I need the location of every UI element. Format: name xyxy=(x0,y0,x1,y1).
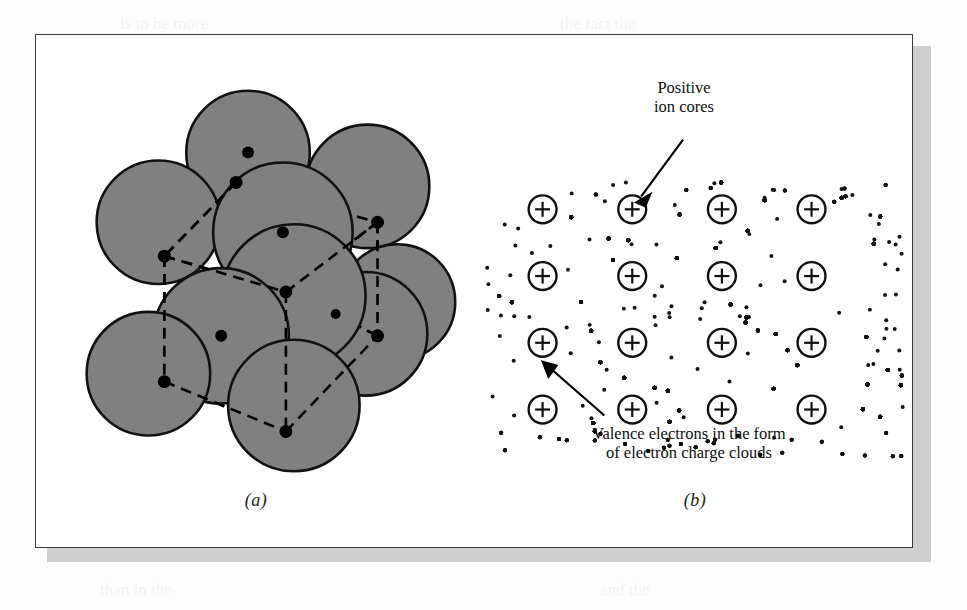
electron-dot xyxy=(579,300,583,304)
ghost-text-line: is to be more xyxy=(120,14,208,34)
electron-dot xyxy=(570,191,574,195)
electron-dot xyxy=(677,408,681,412)
electron-dot xyxy=(709,186,713,190)
scanned-page: is to be more the fact the in the same b… xyxy=(0,0,967,610)
electron-dot xyxy=(653,386,657,390)
electron-dot xyxy=(684,188,688,192)
electron-dot xyxy=(840,196,844,200)
electron-dot xyxy=(758,283,762,287)
electron-dot xyxy=(654,323,658,327)
electron-dot xyxy=(498,334,502,338)
electron-dot xyxy=(901,405,905,409)
electron-dot xyxy=(899,454,903,458)
electron-dot xyxy=(698,317,702,321)
electron-dot xyxy=(898,368,902,372)
electron-dot xyxy=(569,351,573,355)
positive-ion-core xyxy=(708,195,736,223)
electron-dot xyxy=(877,222,881,226)
electron-dot xyxy=(712,181,716,185)
electron-dot xyxy=(882,337,886,341)
electron-dot xyxy=(510,300,514,304)
electron-dot xyxy=(598,360,602,364)
electron-dot xyxy=(653,294,657,298)
electron-dot xyxy=(695,367,699,371)
positive-ion-core xyxy=(618,329,646,357)
positive-ion-core xyxy=(798,329,826,357)
electron-dot xyxy=(675,256,679,260)
electron-dot xyxy=(868,308,872,312)
electron-dot xyxy=(682,415,686,419)
arrow-line-ion-cores xyxy=(641,140,683,197)
positive-ion-core xyxy=(798,262,826,290)
electron-dot xyxy=(900,252,904,256)
electron-dot xyxy=(878,215,882,219)
electron-dot xyxy=(588,323,592,327)
electron-dot xyxy=(607,236,611,240)
electron-dot xyxy=(513,243,517,247)
positive-ion-core xyxy=(529,396,557,424)
electron-dot xyxy=(485,266,489,270)
electron-dot xyxy=(655,401,659,405)
electron-dot xyxy=(864,335,868,339)
positive-ion-core xyxy=(708,262,736,290)
electron-dot xyxy=(714,246,718,250)
electron-dot xyxy=(897,349,901,353)
positive-ion-core xyxy=(618,396,646,424)
electron-dot xyxy=(884,327,888,331)
electron-dot xyxy=(832,200,836,204)
electron-dot xyxy=(868,213,872,217)
positive-ion-core xyxy=(529,329,557,357)
electron-dot xyxy=(772,387,776,391)
ghost-text-line: than in the xyxy=(100,580,172,600)
electron-dot xyxy=(887,240,891,244)
electron-dot xyxy=(626,238,630,242)
electron-dot xyxy=(486,282,490,286)
electron-dot xyxy=(660,284,664,288)
electron-dot xyxy=(898,235,902,239)
electron-dot xyxy=(893,327,897,331)
positive-ion-core xyxy=(618,262,646,290)
electron-dot xyxy=(486,308,490,312)
electron-dot xyxy=(667,311,671,315)
electron-dot xyxy=(850,193,854,197)
electron-dot xyxy=(883,293,887,297)
electron-dot xyxy=(499,431,503,435)
electron-dot xyxy=(727,380,731,384)
figure-frame: (a) Positive ion cores Va xyxy=(35,34,913,548)
electron-dot xyxy=(622,376,626,380)
electron-dot xyxy=(569,215,573,219)
electron-dot xyxy=(772,188,776,192)
electron-dot xyxy=(548,244,552,248)
panel-a-hard-sphere-model: (a) xyxy=(36,35,476,547)
electron-dot xyxy=(756,328,760,332)
electron-dot xyxy=(516,227,520,231)
electron-dot xyxy=(747,232,751,236)
electron-dot xyxy=(666,389,670,393)
electron-dot xyxy=(669,304,673,308)
electron-dot xyxy=(876,349,880,353)
electron-dot xyxy=(700,306,704,310)
electron-dot xyxy=(844,194,848,198)
electron-dot xyxy=(863,454,867,458)
electron-dot xyxy=(630,242,634,246)
electron-dot xyxy=(508,273,512,277)
positive-ion-core xyxy=(529,195,557,223)
electron-dot xyxy=(883,262,887,266)
positive-ion-core xyxy=(529,262,557,290)
electron-dot xyxy=(763,196,767,200)
electron-dot xyxy=(871,362,875,366)
electron-dot xyxy=(886,368,890,372)
hard-sphere-diagram xyxy=(36,35,476,547)
electron-dot xyxy=(669,356,673,360)
electron-dot xyxy=(745,315,749,319)
electron-dot xyxy=(738,314,742,318)
electron-dot xyxy=(530,251,534,255)
electron-dot xyxy=(588,238,592,242)
electron-dot xyxy=(746,351,750,355)
electron-dot xyxy=(894,292,898,296)
electron-dot xyxy=(503,448,507,452)
electron-dot xyxy=(622,307,626,311)
electron-dot xyxy=(866,363,870,367)
electron-dot xyxy=(746,229,750,233)
electron-dot xyxy=(497,294,501,298)
